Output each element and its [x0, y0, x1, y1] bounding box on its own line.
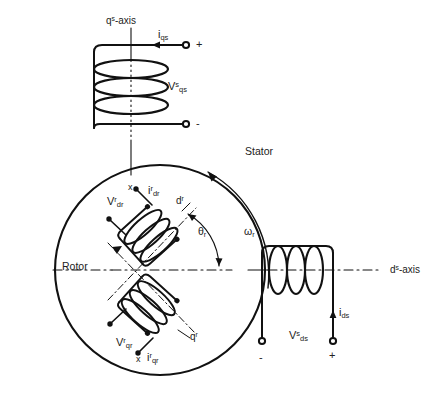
rotor-q-polarity-mark: x: [136, 355, 141, 364]
qr-axis-leader: [178, 330, 190, 338]
stator-q-minus-label: -: [196, 118, 200, 129]
omega-r-base: ω: [244, 225, 252, 237]
theta-r-sub: r: [204, 231, 206, 239]
stator-d-plus-label: +: [329, 350, 335, 361]
rotor-q-voltage-label: Vrqr: [116, 337, 133, 349]
dr-axis-label: dr: [176, 196, 184, 206]
omega-r-sub: r: [252, 231, 254, 239]
stator-label-text: Stator: [245, 145, 273, 157]
stator-q-current-sub: qs: [160, 33, 168, 42]
stator-q-current-label: iqs: [158, 29, 168, 41]
rotor-d-voltage-label: Vrdr: [107, 196, 124, 208]
qs-axis-label-tail: -axis: [115, 15, 136, 26]
stator-d-minus-label: -: [259, 352, 263, 363]
qr-axis-arrow-head: [112, 246, 122, 254]
rotor-q-winding: [115, 271, 184, 340]
stator-q-coil-top-lead: [94, 45, 185, 52]
qr-axis-sup: r: [196, 331, 198, 338]
stator-d-minus-text: -: [259, 351, 263, 363]
stator-q-terminal-minus: [183, 121, 189, 127]
stator-label: Stator: [245, 146, 273, 157]
ds-axis-label: ds-axis: [390, 265, 420, 275]
stator-q-minus-text: -: [196, 117, 200, 129]
rotor-q-current-label: irqr: [147, 352, 159, 364]
rotor-q-coil-loop-2: [125, 285, 171, 328]
ds-axis-label-tail: -axis: [399, 264, 420, 275]
stator-d-voltage-label: Vsds: [289, 330, 308, 342]
rotor-d-lead-upper-dot: [133, 186, 138, 191]
theta-r-label: θr: [198, 226, 206, 239]
rotor-d-coil-loop-3: [136, 223, 182, 266]
rotor-q-lead-lower: [139, 338, 153, 352]
rotor-q-lead-upper: [111, 309, 126, 323]
rotor-q-coil-loop-3: [117, 294, 163, 337]
stator-d-plus-text: +: [329, 349, 335, 361]
machine-winding-diagram: [0, 0, 437, 396]
diagram-root: qs-axis iqs + - Vsqs Stator Rotor ωr θr …: [0, 0, 437, 396]
omega-r-label: ωr: [244, 226, 255, 239]
stator-q-plus-text: +: [196, 38, 202, 50]
stator-d-terminal-minus: [259, 338, 265, 344]
omega-r-arc: [208, 172, 269, 288]
rotor-q-voltage-sub: qr: [126, 341, 133, 350]
rotor-label-text: Rotor: [62, 260, 88, 272]
rotor-d-current-sub: dr: [153, 189, 160, 198]
theta-r-arc: [188, 214, 219, 266]
rotor-q-current-sub: qr: [152, 356, 159, 365]
rotor-d-coil-loop-2: [128, 214, 174, 257]
stator-q-plus-label: +: [196, 39, 202, 50]
qs-axis-label: qs-axis: [106, 16, 136, 26]
stator-q-terminal-plus: [183, 42, 189, 48]
rotor-d-voltage-sub: dr: [117, 200, 124, 209]
rotor-d-lead-lower-dot: [106, 216, 111, 221]
rotor-d-polarity-text: x: [128, 182, 133, 192]
rotor-q-lead-upper-dot: [107, 321, 112, 326]
stator-d-current-arrow-head: [330, 310, 337, 318]
theta-r-arrow-head-bottom: [216, 258, 223, 266]
rotor-d-polarity-mark: x: [128, 183, 133, 192]
rotor-label: Rotor: [62, 261, 88, 272]
dr-axis-sup: r: [182, 195, 184, 202]
stator-d-current-label: ids: [339, 307, 349, 319]
stator-q-voltage-label: Vsqs: [168, 81, 187, 93]
stator-q-current-arrow-head: [152, 42, 160, 49]
rotor-d-current-label: irdr: [148, 185, 160, 197]
stator-d-terminal-plus: [330, 338, 336, 344]
stator-q-coil-bottom-lead: [94, 124, 185, 128]
qr-axis-label: qr: [190, 332, 198, 342]
rotor-q-polarity-text: x: [136, 354, 141, 364]
stator-d-voltage-sub: ds: [300, 334, 308, 343]
stator-d-current-sub: ds: [341, 311, 349, 320]
stator-q-voltage-sub: qs: [179, 85, 187, 94]
